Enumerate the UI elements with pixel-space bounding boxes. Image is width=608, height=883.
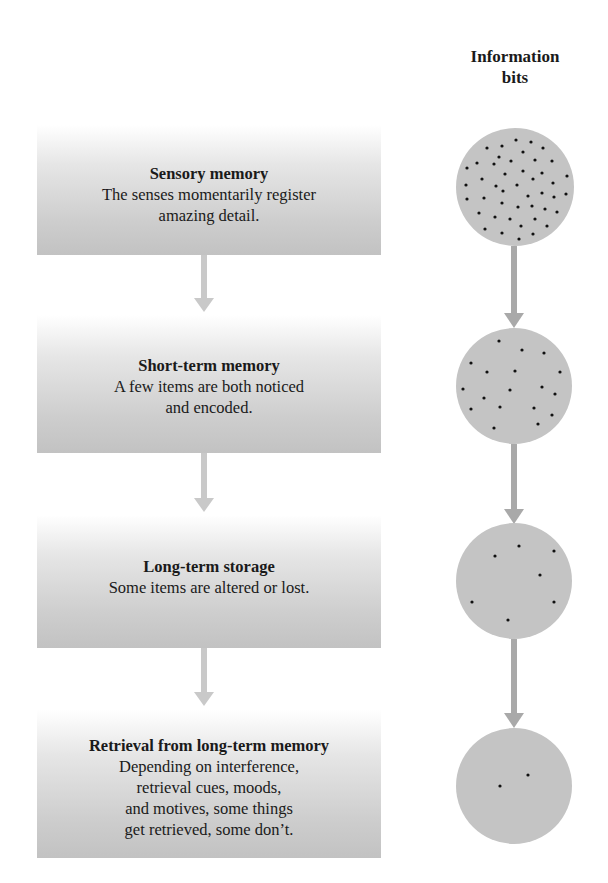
info-bit-dot (464, 183, 467, 186)
info-bit-dot (538, 573, 541, 576)
info-bits-circle (456, 128, 574, 246)
info-bit-dot (553, 392, 556, 395)
info-bit-dot (497, 155, 500, 158)
info-bit-dot (508, 217, 511, 220)
info-bit-dot (469, 361, 472, 364)
info-bit-dot (503, 172, 506, 175)
info-bit-dot (521, 169, 524, 172)
info-bit-dot (520, 348, 523, 351)
info-bit-dot (565, 174, 568, 177)
info-bit-dot (465, 197, 468, 200)
info-bit-dot (508, 388, 511, 391)
info-bit-dot (500, 231, 503, 234)
info-bit-dot (513, 369, 516, 372)
info-bit-dot (540, 385, 543, 388)
info-bit-dot (494, 184, 497, 187)
info-bit-dot (552, 549, 555, 552)
info-bit-dot (509, 159, 512, 162)
info-bit-dot (529, 140, 532, 143)
info-bit-dot (514, 138, 517, 141)
info-bit-dot (506, 618, 509, 621)
info-bits-circle (456, 728, 572, 844)
info-bit-dot (540, 191, 543, 194)
info-bit-dot (545, 224, 548, 227)
info-bit-dot (492, 426, 495, 429)
info-bit-dot (485, 370, 488, 373)
info-bits-circle (456, 328, 572, 444)
info-bit-dot (498, 405, 501, 408)
info-bit-dot (475, 161, 478, 164)
info-bit-dot (533, 217, 536, 220)
info-bits-circle (456, 523, 572, 639)
info-bit-dot (550, 159, 553, 162)
info-bit-dot (531, 232, 534, 235)
info-bit-dot (477, 211, 480, 214)
info-bit-dot (482, 196, 485, 199)
info-bit-dot (493, 554, 496, 557)
info-bit-dot (480, 177, 483, 180)
info-bit-dot (532, 406, 535, 409)
info-bit-dot (533, 158, 536, 161)
info-bit-dot (551, 181, 554, 184)
info-bit-dot (552, 195, 555, 198)
info-bit-dot (543, 207, 546, 210)
info-bit-dot (531, 177, 534, 180)
info-bit-dot (521, 150, 524, 153)
info-bit-dot (552, 600, 555, 603)
info-bit-dot (519, 224, 522, 227)
info-bit-dot (558, 370, 561, 373)
info-bit-dot (515, 183, 518, 186)
info-bit-dot (465, 166, 468, 169)
info-bit-dot (483, 227, 486, 230)
info-bit-dot (493, 215, 496, 218)
info-bit-dot (517, 237, 520, 240)
info-bit-dot (485, 146, 488, 149)
info-bit-dot (469, 407, 472, 410)
info-bit-dot (500, 144, 503, 147)
info-bit-dot (497, 339, 500, 342)
information-bits-circles (0, 0, 608, 883)
info-bit-dot (541, 146, 544, 149)
info-bit-dot (492, 162, 495, 165)
info-bit-dot (540, 171, 543, 174)
info-bit-dot (542, 351, 545, 354)
info-bit-dot (516, 205, 519, 208)
info-bit-dot (526, 194, 529, 197)
info-bit-dot (517, 544, 520, 547)
info-bit-dot (501, 189, 504, 192)
info-bit-dot (564, 192, 567, 195)
info-bit-dot (461, 387, 464, 390)
info-bit-dot (530, 204, 533, 207)
info-bit-dot (550, 413, 553, 416)
info-bit-dot (500, 201, 503, 204)
info-bit-dot (526, 773, 529, 776)
info-bit-dot (482, 396, 485, 399)
info-bit-dot (470, 600, 473, 603)
info-bit-dot (555, 210, 558, 213)
info-bit-dot (536, 422, 539, 425)
info-bit-dot (498, 784, 501, 787)
